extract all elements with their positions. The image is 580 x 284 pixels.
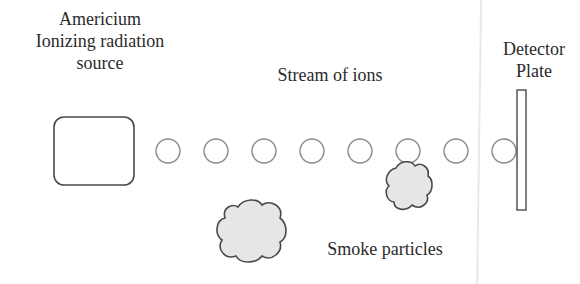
ion-circle [156,139,180,163]
smoke-particle-small [386,162,432,210]
ion-circle [252,139,276,163]
ion-circle [348,139,372,163]
ion-circle [444,139,468,163]
ion-circle [204,139,228,163]
ion-circle [300,139,324,163]
diagram-canvas [0,0,580,284]
radiation-source-box [54,117,134,185]
ion-circle [396,139,420,163]
smoke-particle-large [217,200,286,262]
detector-plate [517,90,526,210]
ion-circle [492,139,516,163]
ion-stream [156,139,516,163]
